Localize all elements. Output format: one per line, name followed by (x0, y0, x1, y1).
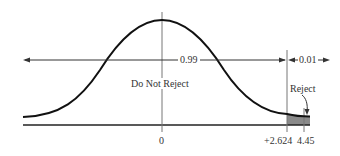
reject-pointer-head (305, 109, 310, 115)
arrow-left-head (23, 58, 30, 63)
rejection-probability-label: 0.01 (298, 54, 318, 65)
normal-curve (23, 20, 310, 117)
reject-label: Reject (290, 83, 316, 94)
tick-label-critical: +2.624 (264, 135, 292, 146)
do-not-reject-label: Do Not Reject (130, 78, 190, 89)
arrow-right-head (279, 58, 286, 63)
tick-label-zero: 0 (159, 135, 164, 146)
acceptance-probability-label: 0.99 (178, 54, 200, 65)
tick-label-statistic: 4.45 (297, 135, 315, 146)
rejection-arrow-right-head (323, 58, 330, 63)
distribution-diagram: 0.99 0.01 Do Not Reject Reject 0 +2.624 … (0, 0, 340, 156)
